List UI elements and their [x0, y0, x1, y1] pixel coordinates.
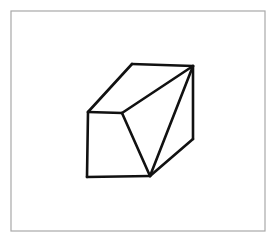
cube-wireframe-figure	[0, 0, 277, 242]
edge-top-front-left-to-top-front-mid	[88, 112, 122, 113]
figure-canvas	[0, 0, 277, 242]
edge-bottom-front-left-to-top-front-left	[87, 112, 88, 177]
edge-bottom-front-mid-to-bottom-front-left	[87, 176, 150, 177]
